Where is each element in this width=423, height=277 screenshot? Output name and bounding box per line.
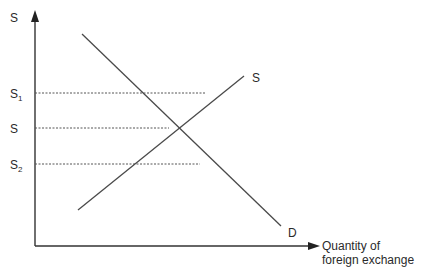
y-axis-arrow-icon bbox=[31, 10, 39, 22]
axes bbox=[31, 10, 320, 250]
supply-curve-label: S bbox=[252, 71, 260, 85]
y-axis-label: S bbox=[10, 11, 18, 25]
supply-demand-diagram: S S1 S S2 S D Quantity of foreign exchan… bbox=[0, 0, 423, 277]
demand-curve bbox=[82, 34, 281, 226]
price-label-s2: S2 bbox=[10, 158, 23, 174]
x-axis-arrow-icon bbox=[308, 242, 320, 250]
price-label-s: S bbox=[10, 122, 18, 136]
supply-curve bbox=[78, 76, 244, 210]
x-axis-label-line2: foreign exchange bbox=[322, 253, 414, 267]
demand-curve-label: D bbox=[288, 226, 297, 240]
price-label-s1: S1 bbox=[10, 87, 23, 103]
x-axis-label-line1: Quantity of bbox=[322, 239, 381, 253]
